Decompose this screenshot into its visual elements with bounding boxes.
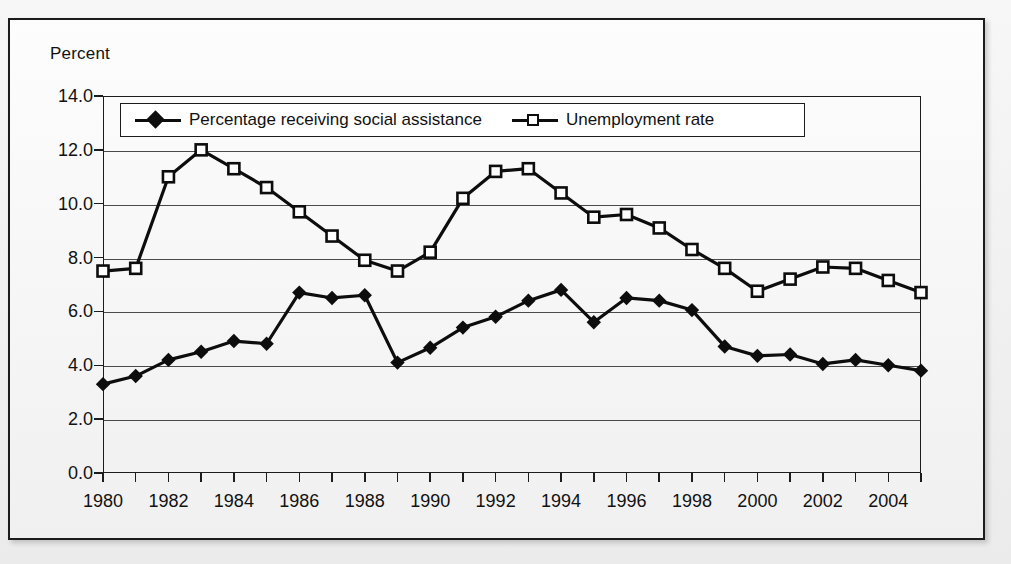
data-point-marker (914, 363, 928, 377)
data-point-marker (652, 293, 666, 307)
data-point-marker (848, 353, 862, 367)
data-point-marker (325, 291, 339, 305)
data-point-marker (750, 349, 764, 363)
series-line-social-assistance (103, 290, 921, 384)
data-point-marker (686, 244, 697, 255)
data-point-marker (228, 163, 239, 174)
filled-diamond-icon (135, 111, 181, 129)
chart-legend: Percentage receiving social assistance U… (120, 103, 805, 137)
data-point-marker (916, 287, 927, 298)
data-point-marker (490, 166, 501, 177)
series-line-unemployment (103, 150, 921, 293)
data-point-marker (457, 193, 468, 204)
data-point-marker (883, 275, 894, 286)
data-point-marker (752, 286, 763, 297)
data-point-marker (556, 187, 567, 198)
data-point-marker (390, 355, 404, 369)
data-point-marker (261, 182, 272, 193)
data-point-marker (785, 274, 796, 285)
data-point-marker (425, 247, 436, 258)
data-point-marker (654, 222, 665, 233)
legend-entry-social-assistance: Percentage receiving social assistance (135, 110, 482, 130)
data-point-marker (359, 255, 370, 266)
legend-entry-unemployment: Unemployment rate (512, 110, 714, 130)
data-point-marker (456, 320, 470, 334)
data-point-marker (817, 261, 828, 272)
data-point-marker (194, 345, 208, 359)
legend-label-unemployment: Unemployment rate (566, 110, 714, 130)
data-point-marker (488, 310, 502, 324)
data-point-marker (294, 206, 305, 217)
data-point-marker (850, 263, 861, 274)
data-point-marker (130, 263, 141, 274)
data-point-marker (227, 334, 241, 348)
data-point-marker (816, 357, 830, 371)
data-point-marker (783, 347, 797, 361)
data-point-marker (719, 263, 730, 274)
data-point-marker (621, 209, 632, 220)
series-layer (0, 0, 1011, 564)
data-point-marker (392, 266, 403, 277)
data-point-marker (523, 163, 534, 174)
data-point-marker (129, 369, 143, 383)
data-point-marker (163, 171, 174, 182)
open-square-icon (512, 111, 558, 129)
legend-label-social-assistance: Percentage receiving social assistance (189, 110, 482, 130)
figure-root: Percent Percentage receiving social assi… (0, 0, 1011, 564)
data-point-marker (98, 266, 109, 277)
data-point-marker (96, 377, 110, 391)
data-point-marker (881, 358, 895, 372)
data-point-marker (196, 144, 207, 155)
data-point-marker (327, 231, 338, 242)
data-point-marker (521, 293, 535, 307)
data-point-marker (358, 288, 372, 302)
data-point-marker (423, 341, 437, 355)
data-point-marker (588, 212, 599, 223)
data-point-marker (161, 353, 175, 367)
